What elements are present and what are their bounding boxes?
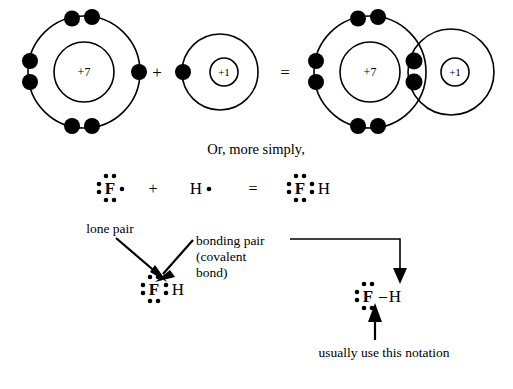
lewis-equals-operator: =	[248, 180, 257, 197]
lewis-hf-hydrogen-symbol: H	[318, 179, 330, 198]
bond-line-fluorine-symbol: F	[363, 287, 373, 306]
fluorine-electron-top-left	[64, 11, 80, 27]
molecule-electron-left-upper	[308, 53, 324, 69]
molecule-electron-top-right	[370, 9, 386, 25]
fluorine-electron-right-unpaired	[131, 64, 147, 80]
lewis-fluorine: F	[97, 174, 125, 203]
lewis-hydrogen-symbol: H	[190, 179, 202, 198]
molecule-electron-bottom-left	[350, 118, 366, 134]
hydrogen-electron-unpaired	[175, 64, 191, 80]
annotated-fluorine-symbol: F	[149, 280, 159, 299]
bond-line-dash: –	[378, 287, 388, 304]
fluorine-electron-left-upper	[22, 53, 38, 69]
lewis-fluorine-dot-left-upper	[97, 182, 102, 187]
bond-line-dot-top-left	[362, 282, 367, 287]
bonding-pair-label-line2: (covalent	[196, 249, 246, 264]
molecule-hydrogen-nucleus-label: +1	[449, 66, 461, 78]
lewis-hf-bonding-dot-upper	[310, 182, 315, 187]
bond-line-hydrogen-fluoride: F – H	[355, 282, 401, 311]
fluorine-electron-left-lower	[22, 74, 38, 90]
annotated-dot-top-right	[156, 275, 161, 280]
annotated-dot-bottom-left	[148, 299, 153, 304]
annotated-dot-bottom-right	[156, 299, 161, 304]
bonding-pair-label-line1: bonding pair	[196, 233, 265, 248]
annotated-hydrogen-symbol: H	[172, 280, 184, 299]
fluorine-atom: +7	[22, 9, 147, 134]
lewis-hydrogen: H	[190, 179, 211, 198]
fluorine-nucleus-label: +7	[78, 65, 91, 79]
molecule-electron-top-left	[350, 11, 366, 27]
annotated-bonding-dot-upper	[164, 283, 169, 288]
lewis-hf-bonding-dot-lower	[310, 190, 315, 195]
bonding-pair-label-line3: bond)	[196, 265, 228, 280]
shell-plus-operator: +	[152, 63, 162, 82]
lewis-fluorine-dot-bottom-right	[112, 198, 117, 203]
bond-line-dot-bottom-left	[362, 306, 367, 311]
annotated-dot-left-lower	[141, 291, 146, 296]
lewis-hf-dot-top-right	[302, 174, 307, 179]
lewis-plus-operator: +	[148, 180, 157, 197]
lewis-hf-dot-bottom-right	[302, 198, 307, 203]
annotated-bonding-dot-lower	[164, 291, 169, 296]
notation-connector	[290, 239, 407, 284]
fluorine-electron-bottom-left	[64, 118, 80, 134]
or-more-simply-caption: Or, more simply,	[207, 141, 305, 157]
bond-line-hydrogen-symbol: H	[389, 287, 401, 306]
molecule-fluorine-nucleus-label: +7	[364, 65, 377, 79]
notation-connector-arrowhead	[393, 268, 407, 284]
hydrogen-fluoride-molecule: +7 +1	[308, 9, 494, 134]
shell-equals-operator: =	[280, 63, 290, 82]
molecule-electron-bottom-right	[370, 118, 386, 134]
hydrogen-atom: +1	[175, 34, 258, 110]
usually-use-notation-arrowhead	[368, 303, 382, 322]
lewis-hf-dot-left-upper	[287, 182, 292, 187]
hydrogen-nucleus-label: +1	[218, 66, 230, 78]
molecule-shared-electron-lower	[406, 74, 423, 91]
molecule-shared-electron-upper	[406, 53, 423, 70]
lewis-hf-fluorine-symbol: F	[295, 179, 305, 198]
covalent-bond-diagram: +7 + +1 = +7	[0, 0, 513, 389]
lewis-fluorine-dot-top-left	[104, 174, 109, 179]
usually-use-notation-caption: usually use this notation	[319, 345, 450, 360]
fluorine-electron-top-right	[84, 9, 100, 25]
bond-line-dot-left-lower	[355, 298, 360, 303]
bond-line-dot-top-right	[370, 282, 375, 287]
lewis-hf-dot-left-lower	[287, 190, 292, 195]
annotated-dot-left-upper	[141, 283, 146, 288]
lewis-fluorine-dot-bottom-left	[104, 198, 109, 203]
molecule-electron-left-lower	[308, 74, 324, 90]
lone-pair-label: lone pair	[86, 221, 134, 236]
bond-line-dot-left-upper	[355, 290, 360, 295]
lewis-fluorine-dot-right-unpaired	[120, 187, 125, 192]
annotated-dot-top-left	[148, 275, 153, 280]
lewis-hf-dot-top-left	[294, 174, 299, 179]
lewis-fluorine-symbol: F	[105, 179, 115, 198]
lewis-fluorine-dot-left-lower	[97, 190, 102, 195]
fluorine-electron-bottom-right	[84, 118, 100, 134]
chemistry-diagram-page: +7 + +1 = +7	[0, 0, 513, 389]
lewis-fluorine-dot-top-right	[112, 174, 117, 179]
lewis-hydrogen-dot-unpaired	[207, 187, 212, 192]
lewis-hydrogen-fluoride: F H	[287, 174, 330, 203]
lewis-hf-dot-bottom-left	[294, 198, 299, 203]
